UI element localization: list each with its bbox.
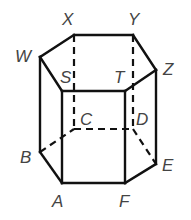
edge-BA bbox=[40, 152, 62, 183]
edge-WX bbox=[40, 35, 74, 57]
vertex-label-B: B bbox=[20, 148, 31, 167]
vertex-label-A: A bbox=[51, 192, 63, 211]
hidden-edges bbox=[40, 35, 156, 164]
vertex-label-X: X bbox=[61, 10, 74, 29]
vertex-label-C: C bbox=[80, 110, 93, 129]
hidden-edge-DE bbox=[133, 129, 156, 164]
vertex-label-S: S bbox=[60, 68, 72, 87]
vertex-label-W: W bbox=[15, 47, 33, 66]
edge-SW bbox=[40, 57, 62, 91]
vertex-label-Z: Z bbox=[162, 60, 174, 79]
hexagonal-prism-diagram: XYWZSTCDBEAF bbox=[0, 0, 191, 220]
vertex-label-E: E bbox=[162, 156, 174, 175]
visible-edges bbox=[40, 35, 156, 183]
edge-FE bbox=[125, 164, 156, 183]
vertex-label-T: T bbox=[114, 68, 126, 87]
vertex-label-D: D bbox=[136, 110, 148, 129]
hidden-edge-BC bbox=[40, 129, 74, 152]
vertex-label-Y: Y bbox=[128, 10, 141, 29]
edge-YZ bbox=[133, 35, 156, 70]
edge-ZT bbox=[125, 70, 156, 91]
vertex-label-F: F bbox=[119, 192, 131, 211]
prism-figure: XYWZSTCDBEAF bbox=[0, 0, 191, 220]
